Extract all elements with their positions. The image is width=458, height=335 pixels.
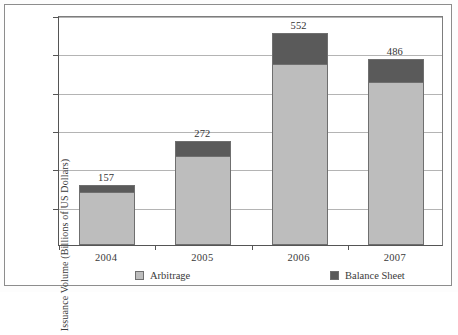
- bar-value-label: 157: [76, 172, 136, 183]
- y-axis-title: Issuance Volume (Billions of US Dollars): [59, 127, 70, 335]
- x-axis-tick-label: 2007: [360, 252, 430, 263]
- x-axis-tick-label: 2005: [167, 252, 237, 263]
- bar-value-label: 272: [172, 128, 232, 139]
- x-axis-tick-label: 2006: [264, 252, 334, 263]
- legend-label: Arbitrage: [150, 270, 190, 281]
- bar-segment-arbitrage: [272, 64, 328, 245]
- bar-segment-arbitrage: [368, 82, 424, 245]
- bar-segment-balance-sheet: [368, 59, 424, 82]
- legend-swatch-icon: [135, 271, 144, 280]
- bar-segment-balance-sheet: [79, 185, 135, 192]
- bar-group: [79, 185, 135, 245]
- x-axis-tick: [59, 245, 60, 250]
- legend-item-balance-sheet[interactable]: Balance Sheet: [330, 270, 405, 281]
- bar-value-label: 552: [269, 20, 329, 31]
- bar-segment-arbitrage: [175, 156, 231, 245]
- bar-segment-balance-sheet: [272, 33, 328, 64]
- bar-group: [368, 59, 424, 245]
- x-axis-tick: [252, 245, 253, 250]
- legend-item-arbitrage[interactable]: Arbitrage: [135, 270, 190, 281]
- y-axis-tick: [53, 17, 59, 18]
- x-axis-tick-label: 2004: [71, 252, 141, 263]
- x-axis-tick: [155, 245, 156, 250]
- y-axis-tick: [53, 94, 59, 95]
- x-axis-tick: [348, 245, 349, 250]
- bar-segment-arbitrage: [79, 192, 135, 245]
- y-axis-tick: [53, 55, 59, 56]
- gridline: [59, 17, 442, 18]
- bar-segment-balance-sheet: [175, 141, 231, 156]
- chart-legend: ArbitrageBalance Sheet: [0, 270, 458, 286]
- bar-group: [272, 33, 328, 245]
- bar-value-label: 486: [365, 46, 425, 57]
- bar-group: [175, 141, 231, 245]
- legend-swatch-icon: [330, 271, 339, 280]
- legend-label: Balance Sheet: [345, 270, 405, 281]
